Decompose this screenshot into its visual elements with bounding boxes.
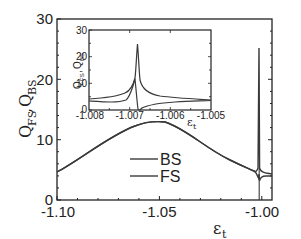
- chart-canvas: 0 10 20 30 -1.10 -1.05 -1.00 ε t Q FS , …: [0, 0, 301, 239]
- inset-plot: 0 10 20 30 -1.008 -1.007 -1.006 -1.005 ε…: [72, 25, 226, 131]
- svg-text:Q: Q: [72, 61, 83, 69]
- main-x-tick-1.05: -1.05: [142, 203, 176, 220]
- svg-text:ε: ε: [213, 219, 221, 238]
- svg-text:Q: Q: [72, 81, 83, 89]
- svg-text:BS: BS: [79, 53, 85, 61]
- svg-text:t: t: [193, 122, 197, 131]
- svg-text:,: ,: [72, 70, 83, 73]
- inset-x-tick-1.006: -1.006: [156, 110, 185, 121]
- main-y-label: Q FS , Q BS: [16, 79, 39, 138]
- main-x-tick-1.00: -1.00: [245, 203, 279, 220]
- main-x-label: ε t: [213, 219, 227, 239]
- legend-label-bs: BS: [160, 151, 181, 168]
- svg-text:BS: BS: [26, 79, 39, 95]
- inset-x-tick-1.007: -1.007: [116, 110, 145, 121]
- svg-text:FS: FS: [79, 73, 85, 81]
- legend: BS FS: [130, 151, 181, 185]
- inset-x-label: ε t: [187, 116, 197, 131]
- legend-label-fs: FS: [160, 168, 180, 185]
- svg-text:t: t: [222, 228, 227, 239]
- svg-text:,: ,: [16, 108, 35, 113]
- inset-y-tick-30: 30: [76, 25, 88, 36]
- inset-x-tick-1.005: -1.005: [197, 110, 226, 121]
- inset-axes-frame: [89, 30, 211, 110]
- inset-x-tick-1.008: -1.008: [76, 110, 105, 121]
- main-y-tick-10: 10: [36, 131, 53, 148]
- main-x-tick-1.10: -1.10: [41, 203, 75, 220]
- main-y-tick-30: 30: [36, 10, 53, 27]
